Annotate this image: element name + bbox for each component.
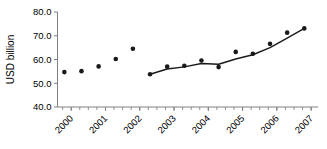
- series-data-point: [268, 42, 273, 47]
- series-data-point: [182, 63, 187, 68]
- x-axis-tick-labels: 20002001200220032004200520062007: [52, 107, 315, 135]
- series-trend-path: [150, 28, 304, 74]
- x-tick-label: 2004: [190, 113, 213, 136]
- series-data-point: [199, 58, 204, 63]
- series-data-point: [131, 47, 136, 52]
- x-tick-label: 2001: [87, 113, 110, 136]
- axis-lines: [58, 12, 319, 107]
- y-axis-tick-labels: 40.050.060.070.080.0: [33, 6, 58, 112]
- series-data-point: [148, 72, 153, 77]
- trend-line-series: [150, 28, 304, 74]
- y-tick-label: 50.0: [33, 78, 52, 89]
- series-data-point: [302, 26, 307, 31]
- chart-canvas: USD billion 40.050.060.070.080.0 2000200…: [0, 0, 327, 149]
- series-data-point: [113, 57, 118, 62]
- y-axis-title-label: USD billion: [5, 35, 16, 84]
- series-data-point: [251, 52, 256, 57]
- series-data-point: [96, 64, 101, 69]
- y-tick-label: 40.0: [33, 101, 52, 112]
- series-data-point: [216, 65, 221, 70]
- y-tick-label: 60.0: [33, 54, 52, 65]
- x-tick-label: 2006: [258, 113, 281, 136]
- y-axis-title: USD billion: [5, 35, 16, 84]
- y-tick-label: 70.0: [33, 30, 52, 41]
- series-data-point: [285, 30, 290, 35]
- x-tick-label: 2003: [155, 113, 178, 136]
- series-data-point: [233, 50, 238, 55]
- scatter-point-series: [62, 26, 307, 76]
- series-data-point: [165, 64, 170, 69]
- x-tick-label: 2002: [121, 113, 144, 136]
- chart-figure: USD billion 40.050.060.070.080.0 2000200…: [0, 0, 327, 149]
- y-tick-label: 80.0: [33, 6, 52, 17]
- series-data-point: [79, 69, 84, 74]
- series-data-point: [62, 70, 67, 75]
- x-tick-label: 2007: [292, 113, 315, 136]
- x-tick-label: 2000: [52, 113, 75, 136]
- x-tick-label: 2005: [224, 113, 247, 136]
